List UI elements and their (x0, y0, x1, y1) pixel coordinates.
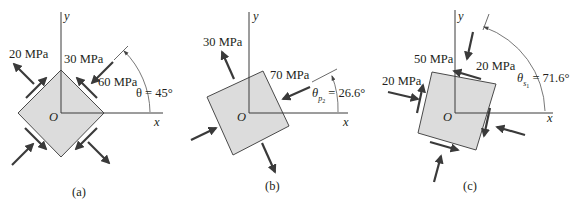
angle-label-a: θ = 45° (136, 86, 173, 100)
stress-label-30mpa-a: 30 MPa (64, 52, 104, 66)
tensile-arrow-upper-left (14, 64, 34, 84)
x-axis-label-a: x (153, 115, 160, 129)
stress-label-20mpa-left-c: 20 MPa (382, 74, 422, 88)
tensile-arrow-lower-right (88, 142, 109, 163)
caption-a: (a) (72, 185, 86, 199)
tensile-arrow-top (222, 52, 234, 79)
stress-label-20mpa-top-c: 20 MPa (476, 59, 516, 73)
stress-label-20mpa-a: 20 MPa (9, 47, 49, 61)
compressive-arrow-top (467, 32, 473, 59)
compressive-arrow-lower-left (12, 144, 33, 165)
angle-label-c: θs1 = 71.6° (517, 71, 569, 89)
y-axis-label-b: y (251, 9, 259, 23)
compressive-arrow-right (283, 87, 310, 99)
origin-label-c: O (443, 110, 452, 124)
y-axis-label-a: y (62, 9, 70, 23)
theta-value-c: = 71.6° (529, 71, 569, 85)
stress-label-60mpa-a: 60 MPa (98, 75, 138, 89)
caption-c: (c) (463, 179, 477, 193)
angle-label-b: θp2 = 26.6° (312, 86, 365, 104)
theta-value-b: = 26.6° (325, 86, 365, 100)
caption-b: (b) (265, 179, 280, 193)
compressive-arrow-left (191, 128, 216, 140)
y-axis-label-c: y (456, 9, 464, 23)
stress-label-70mpa-b: 70 MPa (270, 68, 310, 82)
panel-c: y x O θs1 = 71.6° 50 MPa 20 MPa 20 MPa (… (382, 9, 569, 193)
panel-a: y x O θ = 45° 20 MPa 30 MPa 60 MPa (a) (9, 9, 173, 199)
compressive-arrow-left (388, 92, 418, 99)
stress-element-c (418, 72, 496, 150)
compressive-arrow-right (497, 127, 525, 135)
tensile-arrow-bottom (262, 143, 275, 172)
stress-label-50mpa-c: 50 MPa (414, 52, 454, 66)
x-axis-label-b: x (342, 115, 349, 129)
origin-label-b: O (237, 110, 246, 124)
stress-transformation-figure: y x O θ = 45° 20 MPa 30 MPa 60 MPa (a) y… (0, 0, 571, 206)
panel-b: y x O θp2 = 26.6° 30 MPa 70 MPa (b) (191, 9, 365, 193)
x-axis-label-c: x (546, 111, 553, 125)
stress-label-30mpa-b: 30 MPa (203, 35, 243, 49)
compressive-arrow-bottom (434, 156, 441, 182)
origin-label-a: O (49, 110, 58, 124)
